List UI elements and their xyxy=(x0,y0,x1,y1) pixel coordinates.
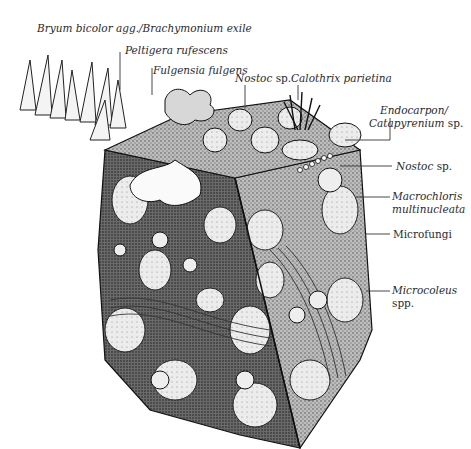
label-microcoleus: Microcoleus xyxy=(392,284,457,297)
label-text: Macrochloris xyxy=(392,190,462,202)
label-peltigera: Peltigera rufescens xyxy=(125,44,228,57)
label-fulgensia: Fulgensia fulgens xyxy=(153,64,248,77)
label-text: sp. xyxy=(445,117,464,129)
label-text: spp. xyxy=(392,297,414,309)
label-endocarpon: Endocarpon/ xyxy=(380,104,448,117)
label-bryum: Bryum bicolor agg./Brachymonium exile xyxy=(37,22,252,35)
label-text: Fulgensia fulgens xyxy=(153,64,248,76)
label-macrochloris: Macrochloris xyxy=(392,190,462,203)
label-text: multinucleata xyxy=(392,203,465,215)
label-text: Nostoc xyxy=(396,160,433,172)
label-text: Microfungi xyxy=(393,228,452,240)
moss-tufts xyxy=(20,55,126,140)
label-microfungi: Microfungi xyxy=(393,228,452,241)
label-microcoleus-spp: spp. xyxy=(392,297,414,310)
label-text: sp. xyxy=(272,72,291,84)
label-catapyrenium: Catapyrenium sp. xyxy=(369,117,463,130)
label-nostoc-top: Nostoc sp. xyxy=(235,72,291,85)
label-text: Endocarpon/ xyxy=(380,104,448,116)
label-text: Nostoc xyxy=(235,72,272,84)
label-text: sp. xyxy=(433,160,452,172)
label-calothrix: Calothrix parietina xyxy=(291,72,392,85)
label-nostoc-right: Nostoc sp. xyxy=(396,160,452,173)
label-text: Calothrix parietina xyxy=(291,72,392,84)
label-text: Catapyrenium xyxy=(369,117,445,129)
label-text: Peltigera rufescens xyxy=(125,44,228,56)
label-multinucleata: multinucleata xyxy=(392,203,465,216)
label-text: Bryum bicolor agg./Brachymonium exile xyxy=(37,22,252,34)
label-text: Microcoleus xyxy=(392,284,457,296)
